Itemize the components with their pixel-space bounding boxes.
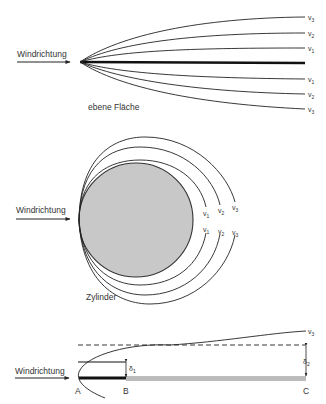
velocity-label-upper-v3: v3 (232, 204, 239, 213)
svg-text:v3: v3 (232, 229, 239, 238)
boundary-layer-curve-v3 (78, 331, 306, 398)
flat-plate (80, 62, 305, 63)
point-b-label: B (123, 386, 129, 396)
velocity-label-lower-v3: v3 (308, 106, 315, 115)
velocity-label-lower-v3: v3 (232, 229, 239, 238)
panel-cylinder: Windrichtung v1 v2 v3 v1 v2 v3 Zylinder (16, 137, 239, 304)
velocity-label-lower-v1: v1 (308, 76, 315, 85)
wind-direction-label: Windrichtung (16, 205, 66, 215)
svg-text:v1: v1 (308, 76, 315, 85)
svg-text:v1: v1 (203, 226, 210, 235)
streamline-upper-v2 (80, 33, 305, 62)
velocity-label-upper-v3: v3 (308, 14, 315, 23)
svg-text:v1: v1 (203, 210, 210, 219)
point-a-label: A (75, 386, 81, 396)
cylinder-title: Zylinder (86, 292, 116, 302)
boundary-layer-diagram: Windrichtung v3 v2 v1 v1 v2 v3 ebene Flä… (0, 0, 326, 404)
wind-direction-label: Windrichtung (15, 366, 65, 376)
velocity-label-lower-v1: v1 (203, 226, 210, 235)
svg-text:v2: v2 (218, 228, 225, 237)
panel-flat-plate: Windrichtung v3 v2 v1 v1 v2 v3 ebene Flä… (17, 14, 315, 115)
wind-direction-label: Windrichtung (17, 49, 67, 59)
svg-text:v3: v3 (232, 204, 239, 213)
delta1-label: δ1 (129, 365, 136, 374)
svg-text:v2: v2 (308, 30, 315, 39)
streamline-lower-v1 (80, 62, 305, 79)
svg-text:δ1: δ1 (129, 365, 136, 374)
panel-boundary-layer: Windrichtung v3 δ1 δ2 A B C (15, 328, 315, 398)
cylinder-body (79, 163, 193, 277)
svg-text:δ2: δ2 (303, 358, 310, 367)
velocity-label-lower-v2: v2 (308, 91, 315, 100)
velocity-label-upper-v2: v2 (308, 30, 315, 39)
flat-plate-title: ebene Fläche (88, 102, 140, 112)
point-c-label: C (303, 386, 309, 396)
svg-text:v2: v2 (308, 91, 315, 100)
svg-text:v3: v3 (308, 14, 315, 23)
svg-text:v3: v3 (308, 106, 315, 115)
svg-text:v1: v1 (308, 45, 315, 54)
velocity-label-upper-v1: v1 (203, 210, 210, 219)
velocity-label-lower-v2: v2 (218, 228, 225, 237)
velocity-label-upper-v1: v1 (308, 45, 315, 54)
velocity-label-v3: v3 (308, 328, 315, 337)
velocity-label-upper-v2: v2 (218, 207, 225, 216)
svg-text:v3: v3 (308, 328, 315, 337)
svg-text:v2: v2 (218, 207, 225, 216)
delta2-label: δ2 (303, 358, 310, 367)
